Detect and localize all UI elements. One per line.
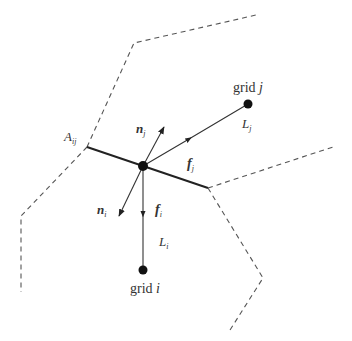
label-f-i: fi [155, 202, 162, 219]
boundary-left [21, 147, 87, 292]
normal-vector-i [119, 166, 143, 216]
label-grid-i: grid i [130, 281, 160, 296]
boundary-top [87, 15, 256, 147]
boundary-right-top [208, 147, 333, 188]
label-f-j: fj [187, 156, 195, 173]
label-normal-j: nj [136, 121, 146, 138]
grid-interface-diagram: Aij nj ni fj fi Lj Li grid j grid i [0, 0, 352, 341]
label-length-i: Li [158, 234, 168, 251]
center-node [138, 161, 148, 171]
grid-j-node [244, 100, 253, 109]
label-normal-i: ni [97, 202, 106, 219]
label-area: Aij [63, 129, 77, 146]
label-grid-j: grid j [233, 80, 263, 95]
grid-i-node [139, 266, 148, 275]
boundary-right-bottom [208, 188, 263, 330]
label-length-j: Lj [241, 116, 252, 133]
cell-boundaries [21, 15, 333, 330]
connection-to-grid-j [143, 104, 248, 166]
